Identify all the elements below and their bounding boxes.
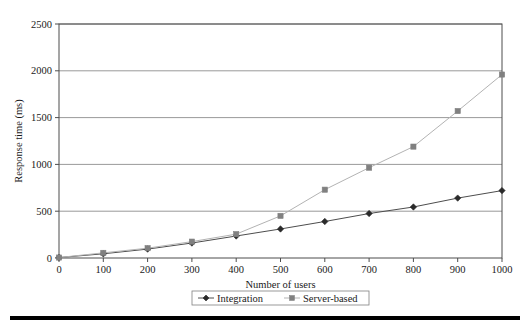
series-line (59, 191, 502, 258)
legend-label: Server-based (303, 293, 358, 304)
data-point-marker (455, 195, 461, 201)
legend-label: Integration (217, 293, 264, 304)
y-axis-tick-label: 0 (47, 253, 52, 264)
data-point-marker (499, 187, 505, 193)
y-axis-tick-label: 2000 (31, 65, 52, 76)
plot-frame (59, 24, 502, 258)
x-axis-tick-label: 100 (95, 264, 111, 275)
x-axis-ticks-group: 01002003004005006007008009001000 (56, 258, 512, 275)
x-axis-tick-label: 800 (406, 264, 422, 275)
y-axis-tick-label: 500 (36, 206, 52, 217)
data-point-marker (410, 204, 416, 210)
data-point-marker (499, 72, 504, 77)
bottom-rule-divider (10, 316, 520, 320)
data-point-marker (411, 144, 416, 149)
data-point-marker (322, 187, 327, 192)
x-axis-tick-label: 500 (273, 264, 289, 275)
x-axis-tick-label: 600 (317, 264, 333, 275)
plot-area-border (59, 24, 502, 258)
x-axis-tick-label: 900 (450, 264, 466, 275)
gridlines-group (59, 24, 502, 211)
data-point-marker (234, 232, 239, 237)
y-axis-title: Response time (ms) (13, 99, 25, 183)
series-integration (56, 187, 505, 260)
response-time-line-chart: 05001000150020002500 0100200300400500600… (0, 0, 530, 332)
x-axis-tick-label: 300 (184, 264, 200, 275)
data-point-marker (145, 246, 150, 251)
x-axis-tick-label: 700 (361, 264, 377, 275)
data-point-marker (455, 108, 460, 113)
x-axis-tick-label: 400 (228, 264, 244, 275)
y-axis-tick-label: 2500 (31, 19, 52, 30)
data-series-group (56, 72, 505, 261)
y-axis-ticks-group: 05001000150020002500 (31, 19, 59, 264)
data-point-marker (56, 255, 61, 260)
x-axis-tick-label: 200 (140, 264, 156, 275)
data-point-marker (322, 218, 328, 224)
data-point-marker (101, 250, 106, 255)
figure-container: 05001000150020002500 0100200300400500600… (0, 0, 530, 332)
x-axis-title: Number of users (246, 279, 316, 290)
y-axis-tick-label: 1000 (31, 159, 52, 170)
legend-marker (290, 296, 295, 301)
x-axis-tick-label: 0 (56, 264, 61, 275)
chart-legend: IntegrationServer-based (192, 291, 369, 305)
y-axis-tick-label: 1500 (31, 112, 52, 123)
axis-titles-group: Number of usersResponse time (ms) (13, 99, 315, 290)
data-point-marker (367, 165, 372, 170)
x-axis-tick-label: 1000 (492, 264, 513, 275)
data-point-marker (278, 213, 283, 218)
data-point-marker (277, 226, 283, 232)
data-point-marker (189, 239, 194, 244)
